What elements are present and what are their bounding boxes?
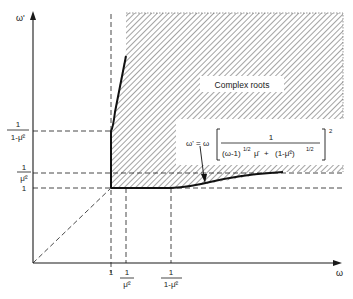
svg-text:1: 1 bbox=[16, 120, 21, 129]
svg-text:(ω-1): (ω-1) bbox=[222, 149, 241, 158]
x-axis-arrow-icon bbox=[333, 260, 342, 266]
x-tick-inv-one-minus-mu2: 1 1-μ̄² bbox=[161, 268, 182, 289]
complex-roots-label: Complex roots bbox=[215, 80, 270, 90]
svg-text:μ̄²: μ̄² bbox=[123, 280, 131, 289]
svg-text:1: 1 bbox=[169, 268, 174, 277]
y-axis-label: ω' bbox=[16, 13, 25, 23]
diagonal-line bbox=[33, 188, 111, 263]
svg-text:1/2: 1/2 bbox=[243, 146, 251, 152]
y-tick-one: 1 bbox=[22, 184, 27, 193]
y-axis-arrow-icon bbox=[30, 11, 36, 20]
x-tick-one: 1 bbox=[109, 268, 114, 277]
svg-text:1-μ̄²: 1-μ̄² bbox=[11, 133, 26, 142]
svg-text:1/2: 1/2 bbox=[306, 146, 314, 152]
x-axis-label: ω bbox=[336, 268, 343, 278]
svg-text:ω' = ω: ω' = ω bbox=[186, 139, 209, 148]
x-tick-inv-mu2: 1 μ̄² bbox=[120, 268, 134, 289]
svg-text:1: 1 bbox=[125, 268, 130, 277]
y-tick-inv-one-minus-mu2: 1 1-μ̄² bbox=[7, 120, 29, 142]
svg-text:1: 1 bbox=[22, 163, 27, 172]
svg-text:1: 1 bbox=[269, 133, 274, 142]
diagram-canvas: ω' ω 1 1-μ̄² 1 μ̄² 1 1 1 μ̄² 1 1-μ̄² Com… bbox=[0, 0, 353, 299]
svg-text:μ̄²: μ̄² bbox=[20, 174, 28, 183]
svg-text:1-μ̄²: 1-μ̄² bbox=[164, 280, 179, 289]
svg-text:(1-μ̄²): (1-μ̄²) bbox=[275, 149, 295, 158]
y-tick-inv-mu2: 1 μ̄² bbox=[17, 163, 31, 183]
svg-text:+: + bbox=[264, 149, 269, 158]
